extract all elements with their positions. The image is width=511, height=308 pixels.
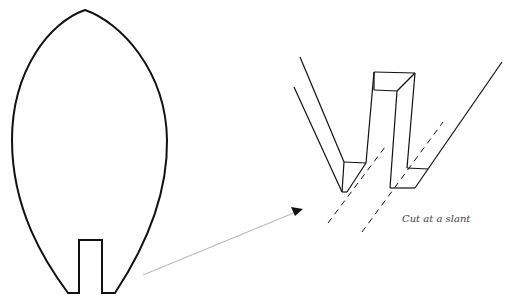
leaf-outline	[12, 10, 167, 293]
cut-caption: Cut at a slant	[402, 213, 470, 224]
pointer-arrow	[143, 207, 303, 275]
arrowhead-icon	[291, 207, 303, 216]
detail-3d	[294, 57, 502, 192]
diagram-canvas	[0, 0, 511, 308]
